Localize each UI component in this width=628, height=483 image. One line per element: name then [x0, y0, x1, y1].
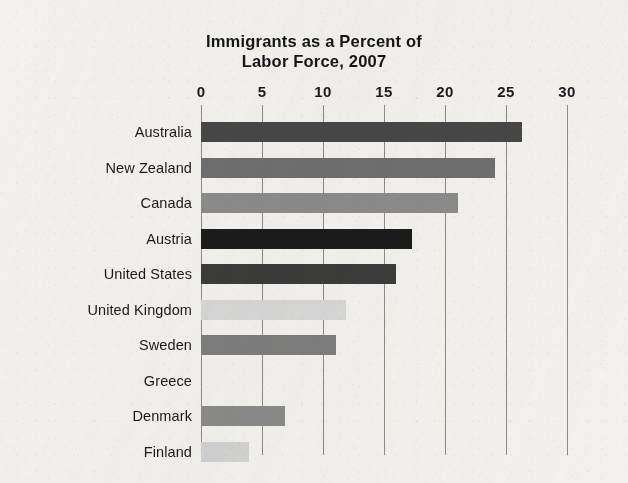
chart-title-line-1: Immigrants as a Percent of: [0, 31, 628, 51]
x-tick-label-10: 10: [314, 83, 331, 100]
gridline-30: [567, 105, 568, 455]
x-tick-label-30: 30: [558, 83, 575, 100]
bar-category-label: United Kingdom: [87, 302, 192, 318]
bar-row[interactable]: Austria: [201, 229, 567, 249]
bar-category-label: New Zealand: [105, 160, 192, 176]
bar-row[interactable]: Canada: [201, 193, 567, 213]
bar[interactable]: [201, 406, 285, 426]
chart-title-line-2: Labor Force, 2007: [0, 51, 628, 71]
x-tick-label-0: 0: [197, 83, 206, 100]
bar-category-label: Finland: [144, 444, 192, 460]
bar-category-label: Denmark: [132, 408, 192, 424]
bar[interactable]: [201, 300, 346, 320]
x-tick-label-5: 5: [258, 83, 267, 100]
bar-category-label: Greece: [144, 373, 192, 389]
bar[interactable]: [201, 442, 249, 462]
bar-row[interactable]: Sweden: [201, 335, 567, 355]
bar-row[interactable]: United States: [201, 264, 567, 284]
bar[interactable]: [201, 193, 458, 213]
x-tick-label-20: 20: [436, 83, 453, 100]
bar-category-label: Sweden: [139, 337, 192, 353]
x-tick-label-15: 15: [375, 83, 392, 100]
bar-category-label: Austria: [146, 231, 192, 247]
bar-category-label: Canada: [141, 195, 192, 211]
bar[interactable]: [201, 335, 336, 355]
bar[interactable]: [201, 158, 495, 178]
bar-category-label: Australia: [135, 124, 192, 140]
bar-row[interactable]: Finland: [201, 442, 567, 462]
bar-category-label: United States: [104, 266, 192, 282]
bar-row[interactable]: Denmark: [201, 406, 567, 426]
bar[interactable]: [201, 264, 396, 284]
bar-row[interactable]: Greece: [201, 371, 567, 391]
bar-row[interactable]: New Zealand: [201, 158, 567, 178]
x-tick-label-25: 25: [497, 83, 514, 100]
plot-area: 051015202530 AustraliaNew ZealandCanadaA…: [201, 105, 567, 455]
chart-title: Immigrants as a Percent of Labor Force, …: [0, 31, 628, 71]
bar[interactable]: [201, 122, 522, 142]
bar-chart-figure: Immigrants as a Percent of Labor Force, …: [0, 0, 628, 483]
bar-row[interactable]: United Kingdom: [201, 300, 567, 320]
bar-row[interactable]: Australia: [201, 122, 567, 142]
bar[interactable]: [201, 229, 412, 249]
